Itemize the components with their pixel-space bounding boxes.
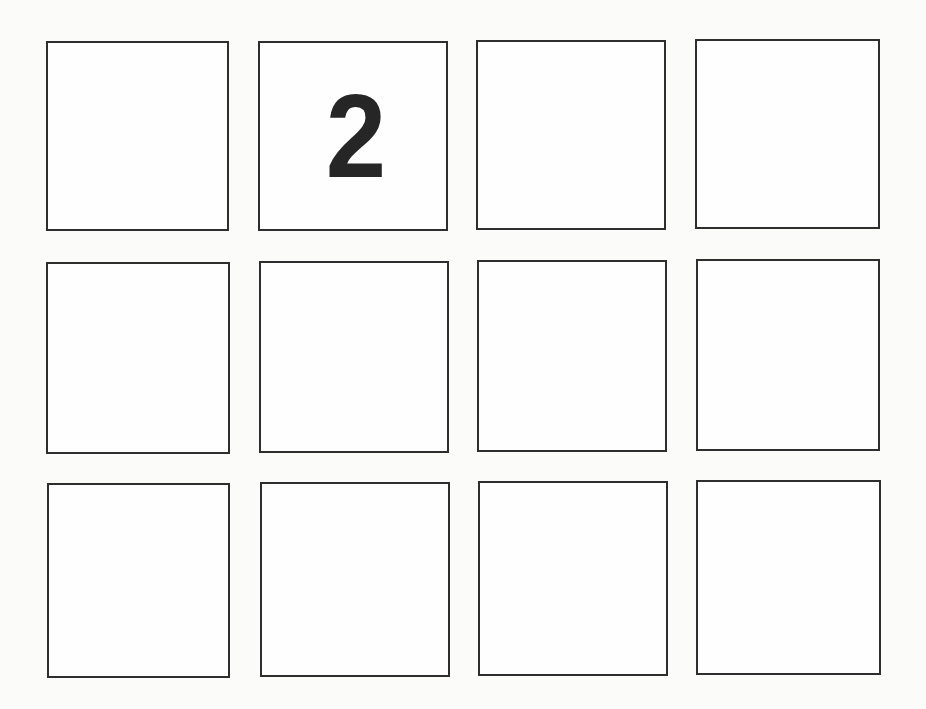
grid-cell-r2-c4 [696,259,880,451]
grid-cell-r3-c4 [696,480,881,675]
grid-cell-r3-c1 [47,483,230,678]
cell-number-label: 2 [326,77,386,195]
grid-cell-r2-c3 [477,260,667,452]
grid-cell-r2-c1 [46,262,230,454]
grid-cell-r3-c3 [478,481,668,676]
grid-cell-r1-c1 [46,41,229,231]
grid-cell-r1-c4 [695,39,880,229]
grid-cell-r2-c2 [259,261,449,453]
grid-cell-r1-c3 [476,40,666,230]
grid-cell-r1-c2: 2 [258,41,448,231]
grid-cell-r3-c2 [260,482,450,677]
